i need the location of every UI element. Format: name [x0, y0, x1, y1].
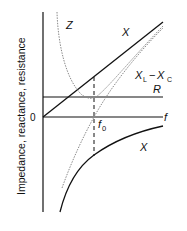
- svg-text:0: 0: [102, 124, 106, 133]
- r-label: R: [153, 83, 161, 95]
- svg-text:−: −: [149, 69, 155, 81]
- origin-label: 0: [30, 112, 36, 123]
- xc-curve: [60, 126, 163, 212]
- f-axis-label: f: [164, 111, 168, 123]
- resonance-diagram: Impedance, reactance, resistance 0 f Z X…: [0, 0, 187, 231]
- f0-label: f 0: [98, 118, 106, 133]
- xl-minus-xc-curve: [62, 28, 163, 188]
- svg-text:X: X: [134, 69, 143, 81]
- svg-text:L: L: [143, 76, 147, 83]
- xl-minus-xc-label: X L − X C: [134, 69, 172, 83]
- z-label: Z: [65, 19, 74, 31]
- z-curve: [57, 12, 163, 98]
- xl-label: X: [121, 26, 130, 38]
- svg-text:X: X: [156, 69, 165, 81]
- y-axis-label: Impedance, reactance, resistance: [15, 37, 27, 195]
- svg-text:C: C: [167, 76, 172, 83]
- xc-label: X: [139, 141, 148, 153]
